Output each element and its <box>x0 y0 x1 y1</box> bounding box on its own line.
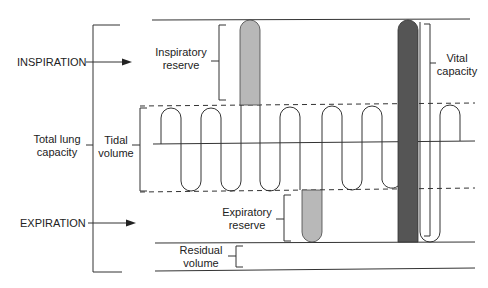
arrow-right-icon <box>122 59 132 66</box>
expiratory-reserve-bar <box>302 190 322 242</box>
tidal-volume-bracket <box>140 108 147 191</box>
expiration-label: EXPIRATION <box>20 217 86 230</box>
inspiratory-reserve-label-line1: Inspiratory <box>152 46 210 59</box>
vital-capacity-bar <box>398 20 418 242</box>
tidal-volume-label-line1: Tidal <box>96 134 136 147</box>
vital-capacity-label-line1: Vital <box>432 52 482 65</box>
expiratory-reserve-label-line2: reserve <box>218 219 276 232</box>
residual-volume-bracket <box>236 246 243 267</box>
residual-volume-label-line2: volume <box>176 257 226 270</box>
tidal-upper-dashed-line <box>140 103 475 106</box>
total-lung-capacity-label-line2: capacity <box>30 146 84 159</box>
total-lung-capacity-label-line1: Total lung <box>30 133 84 146</box>
vital-capacity-bracket <box>424 24 430 236</box>
vital-capacity-label-line2: capacity <box>432 65 482 78</box>
inspiration-label: INSPIRATION <box>17 56 86 69</box>
inspiratory-reserve-label-line2: reserve <box>152 59 210 72</box>
max-inspiration-line <box>152 19 470 20</box>
residual-volume-label-line1: Residual <box>176 244 226 257</box>
expiratory-reserve-bracket <box>284 195 291 241</box>
arrow-right-icon <box>126 220 136 227</box>
inspiratory-reserve-bracket <box>219 25 226 100</box>
tidal-volume-label-line2: volume <box>96 147 136 160</box>
expiratory-reserve-label-line1: Expiratory <box>218 206 276 219</box>
max-expiration-line <box>155 242 475 243</box>
inspiratory-reserve-bar <box>240 20 260 105</box>
